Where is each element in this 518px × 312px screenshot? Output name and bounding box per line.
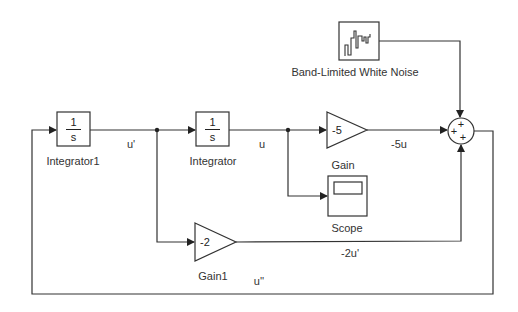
integrator-block[interactable]: 1 s — [196, 112, 229, 146]
integrator1-block[interactable]: 1 s — [57, 112, 90, 146]
gain1-label: Gain1 — [198, 270, 227, 282]
scope-label: Scope — [331, 222, 362, 234]
junction-dot-u — [286, 128, 290, 132]
sum-sign-left: + — [451, 125, 457, 137]
block-diagram-canvas: 1 s Integrator1 1 s Integrator -5 Gain S… — [0, 0, 518, 312]
scope-screen-icon — [334, 182, 362, 194]
integrator1-denominator: s — [71, 131, 77, 143]
gain-value: -5 — [332, 124, 342, 136]
wire-u-prime-branch — [157, 130, 194, 242]
gain-block[interactable]: -5 — [327, 112, 367, 148]
integrator-label: Integrator — [189, 155, 236, 167]
gain1-block[interactable]: -2 — [195, 223, 236, 261]
wire-u-double-prime — [32, 130, 493, 294]
integrator-numerator: 1 — [209, 116, 215, 128]
integrator1-label: Integrator1 — [46, 155, 99, 167]
noise-block[interactable] — [339, 22, 379, 60]
sum-block[interactable]: + + + — [448, 118, 474, 144]
sum-sign-top: + — [458, 118, 464, 130]
junction-dot-u-prime — [155, 128, 159, 132]
wire-noise — [379, 41, 460, 117]
signal-label-minus-5u: -5u — [391, 138, 407, 150]
gain-label: Gain — [331, 159, 354, 171]
signal-label-minus-2u-prime: -2u' — [341, 247, 359, 259]
signal-label-u-double-prime: u'' — [254, 275, 264, 287]
integrator-denominator: s — [210, 131, 216, 143]
wire-u-branch-scope — [288, 130, 327, 196]
sum-sign-bottom: + — [460, 131, 466, 143]
signal-label-u-prime: u' — [127, 138, 135, 150]
scope-block[interactable] — [328, 176, 367, 216]
gain1-value: -2 — [200, 236, 210, 248]
signal-label-u: u — [259, 138, 265, 150]
integrator1-numerator: 1 — [70, 116, 76, 128]
noise-label: Band-Limited White Noise — [291, 66, 418, 78]
